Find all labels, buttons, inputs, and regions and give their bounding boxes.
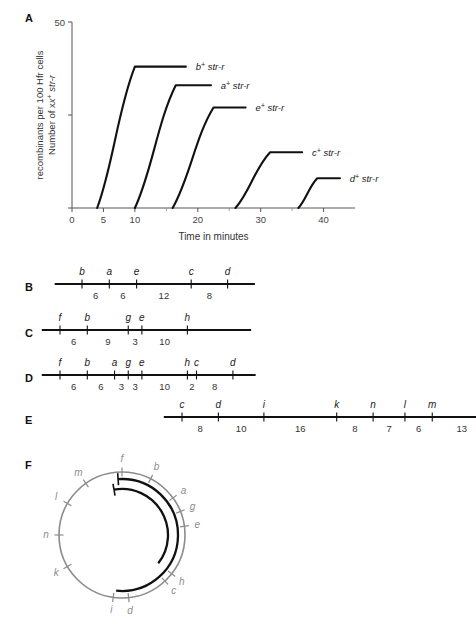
distance-label: 8 <box>352 423 357 434</box>
x-axis-label: Time in minutes <box>178 231 248 242</box>
gene-label-l: l <box>404 399 407 410</box>
gene-label-h: h <box>185 357 191 368</box>
y-axis-label-line2: recombinants per 100 Hfr cells <box>34 50 45 179</box>
circle-gene-label-d: d <box>127 605 133 616</box>
circle-gene-label-i: i <box>110 604 113 615</box>
circle-gene-label-h: h <box>179 576 185 587</box>
distance-label: 3 <box>132 336 137 347</box>
circle-gene-label-e: e <box>194 519 200 530</box>
distance-label: 6 <box>93 290 98 301</box>
gene-label-f: f <box>59 312 63 323</box>
curve-e <box>173 108 246 208</box>
curve-label-e: e+ str-r <box>255 102 285 114</box>
gene-tick-a <box>169 495 176 500</box>
arc-origin-tick <box>113 484 115 496</box>
gene-label-g: g <box>125 357 131 368</box>
curve-a <box>135 85 211 208</box>
curve-c <box>236 152 303 208</box>
hfr-arc-inner <box>114 489 168 563</box>
x-tick-label: 0 <box>69 214 74 225</box>
arc-origin-tick <box>118 473 119 485</box>
circle-gene-label-m: m <box>74 467 82 478</box>
gene-label-b: b <box>85 357 91 368</box>
genome-circle <box>59 472 185 598</box>
distance-label: 10 <box>236 423 247 434</box>
x-tick-label: 10 <box>130 214 141 225</box>
conjugation-kinetics-chart: 500510203040Time in minutesNumber of xx+… <box>0 0 476 250</box>
gene-label-f: f <box>59 357 63 368</box>
gene-tick-m <box>83 480 88 487</box>
circle-gene-label-g: g <box>190 501 196 512</box>
distance-label: 13 <box>457 423 468 434</box>
gene-label-g: g <box>125 312 131 323</box>
gene-label-d: d <box>216 399 222 410</box>
curve-b <box>97 67 186 208</box>
gene-label-i: i <box>263 399 266 410</box>
gene-label-d: d <box>225 266 231 277</box>
distance-label: 16 <box>295 423 306 434</box>
circle-gene-label-l: l <box>55 491 58 502</box>
gene-label-m: m <box>428 399 436 410</box>
circular-genome-map: fbagehcdiknlm <box>0 440 476 629</box>
distance-label: 6 <box>120 290 125 301</box>
gene-label-e: e <box>139 357 145 368</box>
linkage-map-c: fbgeh69310 <box>0 304 476 352</box>
circle-gene-label-n: n <box>43 529 49 540</box>
x-tick-label: 5 <box>101 214 106 225</box>
gene-label-n: n <box>370 399 376 410</box>
curve-label-b: b+ str-r <box>196 61 226 73</box>
x-tick-label: 40 <box>318 214 329 225</box>
gene-label-e: e <box>134 266 140 277</box>
linkage-map-e: cdiknlmf8101687613 <box>0 391 476 439</box>
gene-label-h: h <box>185 312 191 323</box>
circle-gene-label-b: b <box>154 461 160 472</box>
x-tick-label: 30 <box>255 214 266 225</box>
gene-label-d: d <box>230 357 236 368</box>
circle-gene-label-f: f <box>121 453 125 464</box>
y-axis-label-line1: Number of xx+ str-r <box>46 74 58 155</box>
gene-label-k: k <box>334 399 340 410</box>
gene-label-a: a <box>107 266 113 277</box>
circle-gene-label-c: c <box>171 585 176 596</box>
x-tick-label: 20 <box>192 214 203 225</box>
distance-label: 6 <box>71 336 76 347</box>
circle-gene-label-k: k <box>54 567 60 578</box>
distance-label: 10 <box>159 336 170 347</box>
gene-label-b: b <box>79 266 85 277</box>
gene-label-c: c <box>194 357 199 368</box>
gene-label-b: b <box>85 312 91 323</box>
circle-gene-label-a: a <box>181 485 187 496</box>
gene-tick-e <box>180 526 189 527</box>
distance-label: 9 <box>105 336 110 347</box>
distance-label: 6 <box>416 423 421 434</box>
linkage-map-d: fbagehcd66331028 <box>0 349 476 397</box>
distance-label: 8 <box>207 290 212 301</box>
gene-label-c: c <box>180 399 185 410</box>
gene-label-c: c <box>189 266 194 277</box>
distance-label: 12 <box>159 290 170 301</box>
distance-label: 8 <box>198 423 203 434</box>
y-tick-label: 50 <box>54 17 65 28</box>
gene-label-a: a <box>112 357 118 368</box>
curve-label-d: d+ str-r <box>350 172 380 184</box>
gene-tick-i <box>113 593 114 602</box>
distance-label: 7 <box>386 423 391 434</box>
curve-label-c: c+ str-r <box>312 146 341 158</box>
gene-tick-d <box>128 593 129 602</box>
linkage-map-b: baecd66128 <box>0 258 476 306</box>
curve-d <box>298 178 340 208</box>
gene-label-e: e <box>139 312 145 323</box>
curve-label-a: a+ str-r <box>221 79 251 91</box>
